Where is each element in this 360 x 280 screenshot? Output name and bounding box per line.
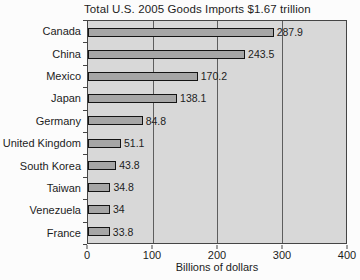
- category-label: Taiwan: [0, 177, 81, 199]
- x-tick-label-0: 0: [84, 249, 90, 261]
- value-label: 43.8: [119, 160, 139, 171]
- value-label: 34: [113, 204, 125, 215]
- bar-row: 34: [88, 199, 346, 221]
- category-label: France: [0, 222, 81, 244]
- value-label: 287.9: [277, 27, 303, 38]
- category-label: Germany: [0, 110, 81, 132]
- bar-row: 287.9: [88, 21, 346, 43]
- x-axis-tick-labels: 0100200300400: [87, 249, 347, 261]
- value-label: 243.5: [248, 49, 274, 60]
- bar-row: 33.8: [88, 221, 346, 243]
- bar-row: 51.1: [88, 132, 346, 154]
- value-label: 51.1: [124, 138, 144, 149]
- category-axis: CanadaChinaMexicoJapanGermanyUnited King…: [0, 20, 81, 244]
- x-axis-title: Billions of dollars: [87, 261, 347, 273]
- bar-france: [88, 227, 110, 236]
- x-tick-label-200: 200: [208, 249, 226, 261]
- bar-row: 243.5: [88, 43, 346, 65]
- chart-title: Total U.S. 2005 Goods Imports $1.67 tril…: [84, 3, 311, 15]
- bar-row: 34.8: [88, 176, 346, 198]
- bar-china: [88, 50, 245, 59]
- category-label: Venezuela: [0, 199, 81, 221]
- value-label: 138.1: [180, 93, 206, 104]
- value-label: 84.8: [146, 116, 166, 127]
- bar-canada: [88, 28, 274, 37]
- bar-row: 138.1: [88, 88, 346, 110]
- value-label: 170.2: [201, 71, 227, 82]
- value-label: 34.8: [113, 182, 133, 193]
- bar-mexico: [88, 72, 198, 81]
- x-tick-label-100: 100: [143, 249, 161, 261]
- bar-row: 170.2: [88, 65, 346, 87]
- bar-rows: 287.9243.5170.2138.184.851.143.834.83433…: [88, 21, 346, 243]
- x-tick-label-300: 300: [273, 249, 291, 261]
- bar-row: 43.8: [88, 154, 346, 176]
- category-label: United Kingdom: [0, 132, 81, 154]
- bar-united-kingdom: [88, 139, 121, 148]
- bar-venezuela: [88, 205, 110, 214]
- x-tick-label-400: 400: [338, 249, 356, 261]
- bar-chart: Total U.S. 2005 Goods Imports $1.67 tril…: [0, 0, 360, 280]
- category-label: Canada: [0, 20, 81, 42]
- bar-taiwan: [88, 183, 110, 192]
- value-label: 33.8: [113, 227, 133, 238]
- category-label: China: [0, 42, 81, 64]
- category-label: Japan: [0, 87, 81, 109]
- bar-germany: [88, 116, 143, 125]
- category-label: Mexico: [0, 65, 81, 87]
- plot-area: 287.9243.5170.2138.184.851.143.834.83433…: [87, 20, 347, 244]
- category-label: South Korea: [0, 154, 81, 176]
- bar-south-korea: [88, 161, 116, 170]
- bar-row: 84.8: [88, 110, 346, 132]
- bar-japan: [88, 94, 177, 103]
